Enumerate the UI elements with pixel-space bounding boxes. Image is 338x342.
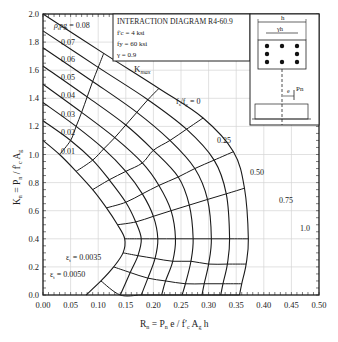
- strain-label-0035: εt = 0.0035: [66, 253, 101, 263]
- y-tick-label: 1.6: [28, 65, 39, 75]
- svg-text:e: e: [287, 88, 290, 94]
- x-tick-label: 0.20: [146, 300, 161, 310]
- x-tick-label: 0.50: [312, 300, 327, 310]
- interaction-diagram: 0.000.050.100.150.200.250.300.350.400.45…: [0, 0, 338, 342]
- chart-title: INTERACTION DIAGRAM R4-60.9: [117, 17, 233, 26]
- rho-label: 0.07: [61, 38, 75, 47]
- x-tick-label: 0.10: [91, 300, 106, 310]
- rho-label: 0.04: [61, 91, 75, 100]
- param-fc: f'c = 4 ksi: [117, 29, 145, 37]
- y-tick-label: 1.0: [28, 150, 39, 160]
- x-tick-label: 0.25: [174, 300, 189, 310]
- param-fy: fy = 60 ksi: [117, 40, 147, 48]
- y-tick-label: 0.6: [28, 206, 39, 216]
- rho-label-008: ρtρg = 0.08: [53, 21, 90, 31]
- x-tick-label: 0.15: [118, 300, 133, 310]
- y-axis-label: Kn = Pn / f′c Ag: [12, 150, 23, 205]
- y-tick-label: 0.8: [28, 178, 39, 188]
- fs-label-050: 0.50: [250, 168, 264, 177]
- y-tick-label: 1.2: [28, 121, 39, 131]
- y-tick-label: 2.0: [28, 9, 39, 19]
- rho-label: 0.06: [61, 55, 75, 64]
- fs-label-075: 0.75: [279, 196, 293, 205]
- svg-text:γh: γh: [276, 25, 284, 32]
- section-inset: h γh e Pn: [250, 14, 319, 125]
- rho-label: 0.02: [61, 128, 75, 137]
- rho-curve: [43, 121, 141, 295]
- x-tick-label: 0.00: [36, 300, 51, 310]
- fs-label-10: 1.0: [300, 224, 310, 233]
- svg-text:Pn: Pn: [296, 85, 304, 93]
- rho-label: 0.01: [61, 147, 75, 156]
- kmax-label: Kmax: [134, 64, 151, 75]
- construction-line: [114, 267, 242, 284]
- y-tick-label: 0.0: [28, 290, 39, 300]
- fs-label-025: 0.25: [217, 136, 231, 145]
- y-tick-label: 1.8: [28, 37, 39, 47]
- x-tick-label: 0.40: [256, 300, 271, 310]
- x-tick-label: 0.35: [229, 300, 244, 310]
- y-tick-label: 0.4: [28, 234, 39, 244]
- y-tick-label: 1.4: [28, 93, 39, 103]
- rho-label: 0.05: [61, 73, 75, 82]
- x-axis-label: Rn = Pn e / f′c Ag h: [140, 319, 209, 330]
- strain-label-0050: εt = 0.0050: [50, 270, 85, 280]
- rho-label: 0.03: [61, 110, 75, 119]
- param-gamma: γ = 0.9: [116, 51, 137, 59]
- x-tick-label: 0.30: [201, 300, 216, 310]
- svg-text:h: h: [281, 14, 285, 22]
- y-tick-label: 0.2: [28, 262, 39, 272]
- fs-label-0: fs/fy = 0: [176, 97, 201, 107]
- x-tick-label: 0.45: [284, 300, 299, 310]
- x-tick-label: 0.05: [63, 300, 78, 310]
